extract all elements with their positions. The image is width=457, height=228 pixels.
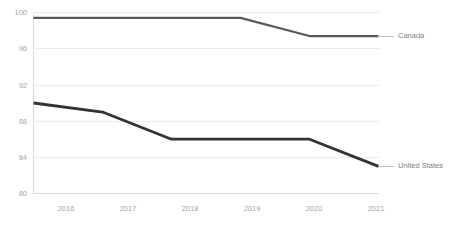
series-line-united-states	[34, 103, 379, 166]
y-tick-label-80: 80	[19, 189, 27, 198]
y-tick-label-84: 84	[19, 153, 27, 162]
chart-canvas: 100 96 92 88 84 80 2016 2017 2018 2019 2…	[0, 0, 457, 228]
x-tick-labels: 2016 2017 2018 2019 2020 2021	[58, 204, 385, 213]
x-tick-label-2017: 2017	[120, 204, 137, 213]
x-tick-label-2021: 2021	[368, 204, 385, 213]
y-tick-labels: 100 96 92 88 84 80	[14, 8, 27, 198]
x-tick-label-2019: 2019	[244, 204, 261, 213]
x-tick-label-2020: 2020	[306, 204, 323, 213]
x-tick-label-2016: 2016	[58, 204, 75, 213]
series-line-canada	[34, 18, 379, 36]
line-chart: 100 96 92 88 84 80 2016 2017 2018 2019 2…	[0, 0, 457, 228]
y-tick-label-88: 88	[19, 117, 27, 126]
y-tick-label-96: 96	[19, 44, 27, 53]
x-tick-label-2018: 2018	[182, 204, 199, 213]
gridlines	[34, 13, 379, 158]
series-label-canada: Canada	[398, 31, 425, 40]
series-label-united-states: United States	[398, 161, 443, 170]
y-tick-label-92: 92	[19, 81, 27, 90]
y-tick-label-100: 100	[14, 8, 27, 17]
